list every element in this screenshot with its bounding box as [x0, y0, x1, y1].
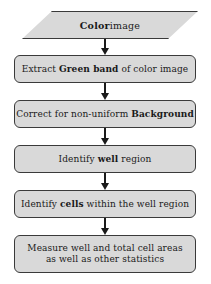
step3-bold: well [98, 154, 119, 164]
flow-node-step5: Measure well and total cell areasas well… [14, 235, 196, 273]
step4-bold: cells [60, 199, 84, 209]
input-label-bold: Color [80, 20, 110, 31]
step5-line2: as well as other statistics [46, 254, 164, 264]
step2-prefix: Correct for non-uniform [16, 109, 131, 119]
flow-arrow-3 [104, 128, 106, 145]
flow-node-step1-label: Extract Green band of color image [17, 64, 194, 75]
flow-node-step5-label: Measure well and total cell areasas well… [22, 243, 187, 265]
step3-suffix: region [118, 154, 151, 164]
flow-node-step4: Identify cells within the well region [14, 190, 196, 218]
flow-arrow-1 [104, 39, 106, 55]
flow-arrow-5 [104, 218, 106, 235]
step5-line1: Measure well and total cell areas [27, 243, 182, 253]
input-label-rest: image [110, 20, 140, 31]
step2-bold: Background [131, 109, 194, 119]
flow-node-step1: Extract Green band of color image [14, 55, 196, 83]
step1-bold: Green band [59, 64, 119, 74]
flow-node-input: Color image [22, 11, 198, 39]
flow-node-step3: Identify well region [14, 145, 196, 173]
flow-node-step3-label: Identify well region [54, 154, 157, 165]
flowchart-diagram: Color image Extract Green band of color … [0, 0, 211, 284]
flow-arrow-4 [104, 173, 106, 190]
arrow-head-icon [101, 228, 109, 235]
arrow-head-icon [101, 93, 109, 100]
flow-node-step4-label: Identify cells within the well region [16, 199, 194, 210]
flow-arrow-2 [104, 83, 106, 100]
step1-prefix: Extract [22, 64, 59, 74]
step1-suffix: of color image [119, 64, 189, 74]
flow-node-step2: Correct for non-uniform Background [14, 100, 196, 128]
step4-suffix: within the well region [84, 199, 189, 209]
arrow-head-icon [101, 183, 109, 190]
flow-node-step2-label: Correct for non-uniform Background [11, 109, 199, 120]
flow-node-input-label: Color image [22, 11, 198, 39]
step4-prefix: Identify [21, 199, 60, 209]
arrow-head-icon [101, 138, 109, 145]
step3-prefix: Identify [59, 154, 98, 164]
arrow-head-icon [101, 48, 109, 55]
